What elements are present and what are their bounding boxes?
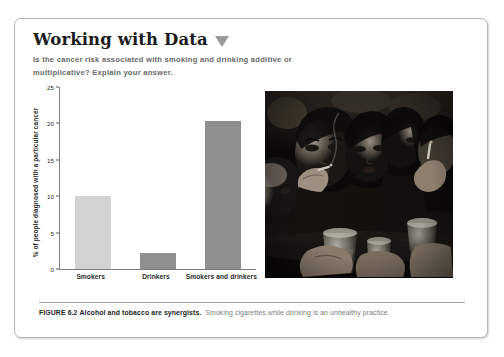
- x-axis-line: [59, 269, 256, 270]
- y-tick-label: 15: [47, 156, 54, 163]
- y-axis-label-text: % of people diagnosed with a particular …: [33, 107, 40, 257]
- bar-column: [205, 87, 241, 269]
- question-text: Is the cancer risk associated with smoki…: [33, 54, 333, 79]
- y-tick-20: 20: [47, 120, 59, 127]
- x-tick-labels: SmokersDrinkersSmokers and drinkers: [58, 273, 254, 303]
- plot-area: 0510152025: [45, 87, 257, 295]
- y-tick-label: 25: [47, 84, 54, 91]
- title-row: Working with Data: [33, 30, 463, 49]
- y-tick-label: 20: [47, 120, 54, 127]
- bar-smokers: [75, 196, 111, 269]
- triangle-down-icon: [215, 36, 229, 47]
- bar-smokers-and-drinkers: [205, 121, 241, 269]
- y-tick-label: 5: [51, 229, 54, 236]
- bar-drinkers: [140, 253, 176, 269]
- y-tick-mark: [56, 123, 59, 124]
- y-tick-25: 25: [47, 84, 59, 91]
- bar-group: [60, 87, 256, 269]
- y-tick-mark: [56, 87, 59, 88]
- caption-divider: [39, 302, 465, 303]
- figure-caption: FIGURE 6.2 Alcohol and tobacco are syner…: [39, 307, 467, 319]
- bar-chart: % of people diagnosed with a particular …: [29, 87, 261, 307]
- y-tick-mark: [56, 269, 59, 270]
- caption-figure-number: FIGURE 6.2: [39, 309, 78, 316]
- y-tick-15: 15: [47, 156, 59, 163]
- photo-people-smoking-drinking: [265, 91, 453, 278]
- y-tick-label: 0: [51, 266, 54, 273]
- working-with-data-panel: Working with Data Is the cancer risk ass…: [14, 18, 488, 338]
- y-tick-0: 0: [51, 266, 59, 273]
- y-tick-5: 5: [51, 229, 59, 236]
- y-tick-mark: [56, 232, 59, 233]
- bar-column: [75, 87, 111, 269]
- panel-header: Working with Data Is the cancer risk ass…: [33, 30, 463, 79]
- caption-body-text: Smoking cigarettes while drinking is an …: [205, 309, 389, 316]
- bar-column: [140, 87, 176, 269]
- page-title: Working with Data: [33, 30, 208, 49]
- y-tick-label: 10: [47, 193, 54, 200]
- y-tick-10: 10: [47, 193, 59, 200]
- y-axis-label: % of people diagnosed with a particular …: [29, 87, 43, 277]
- y-tick-mark: [56, 159, 59, 160]
- y-tick-mark: [56, 196, 59, 197]
- x-label-smokers-and-drinkers: Smokers and drinkers: [183, 273, 260, 282]
- caption-bold-text: Alcohol and tobacco are synergists.: [80, 309, 202, 316]
